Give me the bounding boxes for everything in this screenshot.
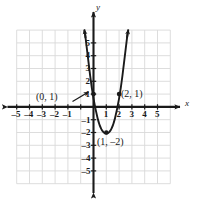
y-tick-label--5: –5 xyxy=(82,167,91,176)
x-tick-label--5: –5 xyxy=(12,110,21,119)
x-tick-label-5: 5 xyxy=(155,110,160,119)
annotation-symmetric-point: (2, 1) xyxy=(121,89,143,99)
x-tick-label--4: –4 xyxy=(24,110,33,119)
y-tick-label--2: –2 xyxy=(82,128,91,137)
x-tick-label-1: 1 xyxy=(104,110,109,119)
y-tick-label-5: 5 xyxy=(86,39,91,48)
x-tick-label--1: –1 xyxy=(63,110,72,119)
y-tick-label--4: –4 xyxy=(82,154,91,163)
y-tick-label--3: –3 xyxy=(82,141,91,150)
point-0-1 xyxy=(91,92,96,97)
x-tick-label--3: –3 xyxy=(37,110,46,119)
point-vertex xyxy=(104,130,109,135)
annotation-vertex: (1, –2) xyxy=(97,137,124,147)
x-tick-label-3: 3 xyxy=(129,110,134,119)
y-tick-label-2: 2 xyxy=(86,77,91,86)
y-tick-label--1: –1 xyxy=(82,116,91,125)
coordinate-plane-figure: –5 –4 –3 –2 –1 1 2 3 4 5 5 4 3 2 1 –1 –2… xyxy=(0,0,200,201)
y-tick-label-1: 1 xyxy=(86,90,91,99)
y-tick-label-4: 4 xyxy=(86,51,91,60)
annotation-y-intercept: (0, 1) xyxy=(36,92,58,102)
x-tick-label-4: 4 xyxy=(142,110,147,119)
x-tick-label--2: –2 xyxy=(50,110,59,119)
y-tick-label-3: 3 xyxy=(86,64,91,73)
y-axis-label: y xyxy=(96,3,100,12)
x-axis-label: x xyxy=(185,99,189,108)
x-tick-label-2: 2 xyxy=(117,110,122,119)
parabola-plot xyxy=(0,0,200,201)
